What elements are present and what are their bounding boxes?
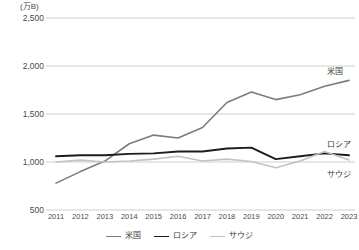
x-axis-tick-label: 2016 <box>170 212 187 221</box>
series-annotation: サウジ <box>327 168 351 179</box>
legend-item[interactable]: サウジ <box>210 231 253 241</box>
x-axis-tick-label: 2019 <box>243 212 260 221</box>
x-axis-tick-label: 2013 <box>96 212 113 221</box>
x-axis-tick-label: 2014 <box>121 212 138 221</box>
legend: 米国ロシアサウジ <box>0 231 359 241</box>
series-annotation: ロシア <box>327 138 351 149</box>
x-axis-tick-label: 2015 <box>145 212 162 221</box>
series-line <box>56 80 349 183</box>
legend-label: サウジ <box>229 231 253 241</box>
x-axis-tick-label: 2022 <box>316 212 333 221</box>
y-axis-tick-label: 1,000 <box>0 157 44 167</box>
legend-item[interactable]: ロシア <box>154 231 197 241</box>
legend-item[interactable]: 米国 <box>106 231 141 241</box>
y-axis-tick-label: 500 <box>0 205 44 215</box>
x-axis-tick-label: 2011 <box>48 212 64 221</box>
series-line <box>56 148 349 160</box>
x-axis-tick-label: 2021 <box>292 212 309 221</box>
y-axis-tick-label: 2,000 <box>0 61 44 71</box>
legend-swatch-icon <box>154 236 169 237</box>
x-axis-tick-label: 2017 <box>194 212 211 221</box>
x-axis-tick-label: 2018 <box>219 212 236 221</box>
line-chart: (万B) 5001,0001,5002,0002,500 20112012201… <box>0 0 359 250</box>
series-annotation: 米国 <box>327 65 343 76</box>
x-axis-tick-label: 2020 <box>267 212 284 221</box>
legend-swatch-icon <box>210 236 225 237</box>
x-axis-tick-label: 2023 <box>341 212 358 221</box>
y-axis-tick-label: 1,500 <box>0 109 44 119</box>
y-axis-tick-label: 2,500 <box>0 13 44 23</box>
y-axis-ticks: 5001,0001,5002,0002,500 <box>0 0 44 250</box>
legend-swatch-icon <box>106 236 121 237</box>
legend-label: ロシア <box>173 231 197 241</box>
x-axis-tick-label: 2012 <box>72 212 89 221</box>
legend-label: 米国 <box>125 231 141 241</box>
series-line <box>56 151 349 167</box>
